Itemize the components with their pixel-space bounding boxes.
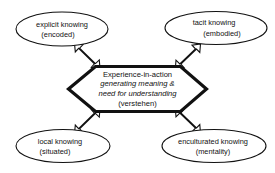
diagram-canvas: explicit knowing (encoded) tacit knowing…: [0, 0, 275, 173]
center-line-3: need for understanding: [98, 89, 177, 98]
node-tacit-knowing[interactable]: tacit knowing (embodied): [165, 12, 267, 45]
node-local-knowing[interactable]: local knowing (situated): [16, 130, 110, 163]
knowing-diagram: explicit knowing (encoded) tacit knowing…: [0, 0, 275, 173]
explicit-knowing-line2: (encoded): [41, 30, 74, 39]
center-line-1: Experience-in-action: [103, 70, 172, 79]
tacit-knowing-line2: (embodied): [203, 29, 240, 38]
center-line-4: (verstehen): [118, 99, 157, 108]
center-node-experience-in-action[interactable]: Experience-in-action generating meaning …: [69, 67, 207, 112]
enculturated-knowing-line2: (mentality): [196, 147, 231, 156]
local-knowing-line2: (situated): [40, 147, 71, 156]
node-enculturated-knowing[interactable]: enculturated knowing (mentality): [162, 130, 266, 163]
center-line-2: generating meaning &: [100, 79, 174, 88]
explicit-knowing-line1: explicit knowing: [36, 20, 88, 29]
local-knowing-line1: local knowing: [38, 137, 82, 146]
enculturated-knowing-line1: enculturated knowing: [178, 137, 248, 146]
node-explicit-knowing[interactable]: explicit knowing (encoded): [16, 12, 108, 46]
tacit-knowing-line1: tacit knowing: [193, 18, 236, 27]
